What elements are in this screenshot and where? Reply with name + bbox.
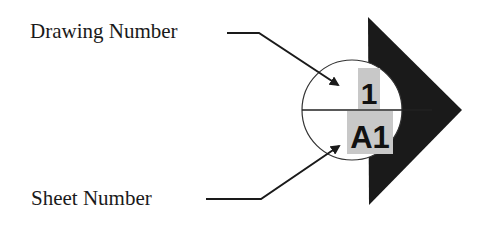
sheet-number-leader-arrow [206, 146, 339, 199]
drawing-number: 1 [361, 77, 378, 110]
sheet-number-label: Sheet Number [31, 188, 152, 209]
drawing-number-label: Drawing Number [30, 21, 178, 42]
sheet-number: A1 [350, 120, 390, 155]
diagram-canvas: 1 A1 Drawing Number Sheet Number [0, 0, 487, 225]
